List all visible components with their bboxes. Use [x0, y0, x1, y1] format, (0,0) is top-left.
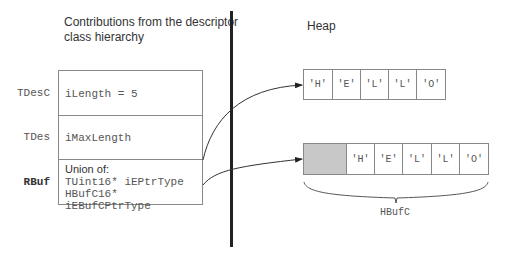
- arrow-to-hbufc: [203, 159, 302, 185]
- hbufc-brace: [304, 182, 488, 203]
- connectors: [0, 0, 506, 259]
- arrow-to-top-array: [203, 85, 302, 160]
